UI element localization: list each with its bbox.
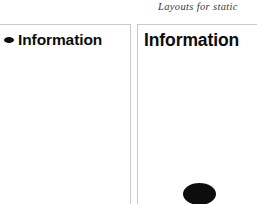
running-header-title: Layouts for static: [158, 0, 257, 14]
panel-heading-label: Information: [144, 30, 239, 50]
panel-heading-row: Information: [4, 31, 102, 48]
information-panel-bulleted: Information: [0, 24, 131, 204]
bullet-ellipse-icon: [4, 37, 14, 43]
panel-heading-label: Information: [18, 31, 102, 48]
filled-ellipse-icon: [183, 183, 216, 204]
information-panel-plain: Information: [137, 24, 257, 204]
